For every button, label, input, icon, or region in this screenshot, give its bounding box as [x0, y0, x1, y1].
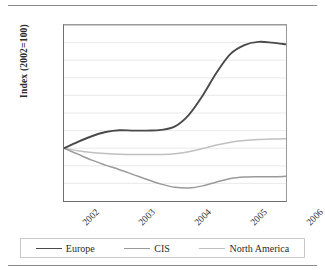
x-tick-label: 2004 [193, 207, 214, 228]
plot-area [63, 24, 287, 202]
figure-container: Index (2002=100) 85909510010511011512012… [0, 0, 325, 270]
plot-wrapper: 859095100105110115120125130135 200220032… [63, 24, 287, 202]
x-tick-label: 2006 [305, 207, 325, 228]
chart-svg [64, 25, 286, 201]
legend-label: CIS [154, 243, 170, 254]
legend-label: Europe [66, 243, 95, 254]
legend-label: North America [229, 243, 289, 254]
legend-item-europe[interactable]: Europe [36, 243, 95, 254]
legend-item-north-america[interactable]: North America [199, 243, 289, 254]
series-line-europe [64, 42, 286, 148]
x-tick-label: 2002 [81, 207, 102, 228]
legend-swatch-icon [124, 248, 150, 249]
series-line-north-america [64, 139, 286, 155]
legend-item-cis[interactable]: CIS [124, 243, 170, 254]
figure-rule-top [8, 5, 317, 6]
y-axis-title: Index (2002=100) [19, 0, 29, 131]
legend-swatch-icon [199, 248, 225, 249]
legend-swatch-icon [36, 248, 62, 249]
chart-legend: EuropeCISNorth America [20, 238, 305, 258]
x-tick-label: 2003 [137, 207, 158, 228]
x-tick-label: 2005 [249, 207, 270, 228]
figure-rule-bottom [8, 265, 317, 266]
